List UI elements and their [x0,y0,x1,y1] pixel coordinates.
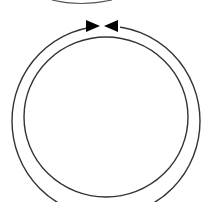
outer-ring [12,26,200,202]
top-arc [52,0,112,4]
inner-ring [24,37,188,197]
diagram-canvas [0,0,205,202]
